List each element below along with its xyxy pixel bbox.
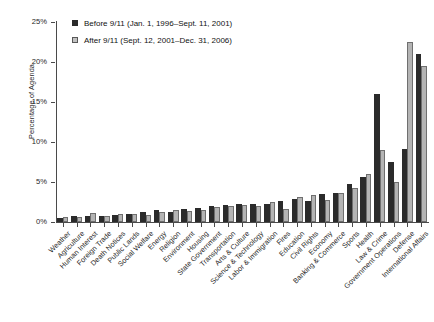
x-axis-tick [104,223,105,227]
bar-group [223,22,234,222]
x-axis-tick [297,223,298,227]
y-tick-mark [51,142,55,143]
x-axis-tick [352,223,353,227]
bar-group [236,22,247,222]
bar-after-9-11 [297,197,303,222]
bar-group [388,22,399,222]
bar-after-9-11 [338,193,344,222]
x-axis-tick [146,223,147,227]
x-axis-tick [201,223,202,227]
bar-group [99,22,110,222]
legend-swatch-after-icon [72,37,78,43]
bar-after-9-11 [77,217,83,222]
bar-after-9-11 [214,207,220,222]
x-axis-tick [366,223,367,227]
y-tick-mark [51,62,55,63]
bar-group [347,22,358,222]
bar-group [112,22,123,222]
bar-after-9-11 [256,206,262,222]
y-tick-mark [51,222,55,223]
bar-group [292,22,303,222]
bar-group [250,22,261,222]
y-tick-label: 15% [0,97,47,106]
bar-after-9-11 [228,206,234,222]
x-axis-tick [187,223,188,227]
x-axis-tick [132,223,133,227]
bar-after-9-11 [394,182,400,222]
x-axis-tick [159,223,160,227]
bar-group [181,22,192,222]
x-axis-tick [214,223,215,227]
bar-after-9-11 [366,174,372,222]
bar-after-9-11 [270,202,276,222]
x-axis-tick [380,223,381,227]
legend-label-after: After 9/11 (Sept. 12, 2001–Dec. 31, 2006… [84,36,232,45]
x-axis-tick [325,223,326,227]
x-axis-tick [270,223,271,227]
bar-after-9-11 [173,210,179,222]
bar-group [264,22,275,222]
x-axis-tick [228,223,229,227]
x-axis-tick [118,223,119,227]
bar-group [57,22,68,222]
bar-group [168,22,179,222]
x-axis-tick [256,223,257,227]
bar-group [126,22,137,222]
x-axis-tick [338,223,339,227]
bar-after-9-11 [159,212,165,222]
bar-after-9-11 [90,213,96,222]
bar-group [154,22,165,222]
bar-group [374,22,385,222]
x-axis-tick [394,223,395,227]
bar-after-9-11 [325,200,331,222]
x-axis-tick [77,223,78,227]
x-axis-tick [421,223,422,227]
bar-chart-figure: Percentage of Agenda 0%5%10%15%20%25% We… [0,0,434,322]
x-axis-tick [63,223,64,227]
bar-after-9-11 [242,205,248,222]
y-tick-label: 10% [0,137,47,146]
bar-group [360,22,371,222]
y-tick-label: 25% [0,17,47,26]
bar-after-9-11 [380,150,386,222]
x-axis-tick [311,223,312,227]
y-tick-mark [51,182,55,183]
chart-legend: Before 9/11 (Jan. 1, 1996–Sept. 11, 2001… [72,16,232,50]
y-tick-label: 20% [0,57,47,66]
bar-group [71,22,82,222]
bar-after-9-11 [421,66,427,222]
legend-entry-before: Before 9/11 (Jan. 1, 1996–Sept. 11, 2001… [72,16,232,30]
y-tick-mark [51,102,55,103]
bar-group [416,22,427,222]
bar-group [140,22,151,222]
bar-after-9-11 [146,215,152,222]
bar-group [402,22,413,222]
legend-entry-after: After 9/11 (Sept. 12, 2001–Dec. 31, 2006… [72,33,232,47]
legend-swatch-before-icon [72,20,78,26]
bar-group [319,22,330,222]
x-axis-tick [173,223,174,227]
bar-after-9-11 [201,210,207,222]
bar-after-9-11 [104,216,110,222]
y-tick-mark [51,22,55,23]
bar-group [278,22,289,222]
bar-after-9-11 [407,42,413,222]
legend-label-before: Before 9/11 (Jan. 1, 1996–Sept. 11, 2001… [84,19,232,28]
bar-after-9-11 [311,195,317,222]
x-axis-tick [283,223,284,227]
bar-after-9-11 [187,211,193,222]
bar-after-9-11 [132,214,138,222]
x-axis-tick [242,223,243,227]
bar-group [195,22,206,222]
bar-group [305,22,316,222]
plot-area [56,22,428,222]
bar-after-9-11 [283,209,289,222]
bar-group [85,22,96,222]
x-axis-tick [407,223,408,227]
y-tick-label: 5% [0,177,47,186]
bar-after-9-11 [352,188,358,222]
bar-group [333,22,344,222]
x-axis-tick [90,223,91,227]
bar-group [209,22,220,222]
bar-after-9-11 [118,214,124,222]
